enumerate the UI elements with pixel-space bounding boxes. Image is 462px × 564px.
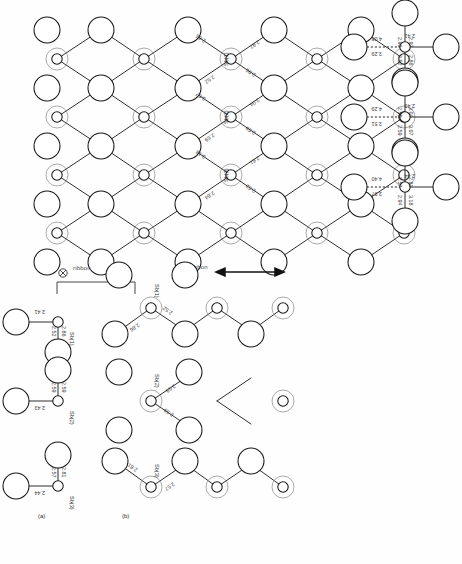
chain-sb3-up-left: 3.18 [408, 195, 414, 206]
chain-sb1-down-left: 2.97 [408, 37, 414, 48]
lattice-sb3-label: Sb(3) [223, 168, 229, 182]
panel-b-sb3-d1: 2.81 [127, 462, 139, 473]
lattice-sb2-d4: 3.04 [249, 97, 261, 108]
perpendicular-icon [59, 269, 67, 277]
structure-svg: 2.86 2.52 2.96 2.97 Sb(1) 3.07 2.59 2.59… [0, 0, 462, 564]
panel-b-chain-sb2: 2.59 2.59 Sb(2) [106, 359, 294, 443]
panel-a: (a) 2.86 2.52 2.41 Sb(1) 2.59 2.59 [3, 309, 75, 519]
panel-a-sb2-d2: 2.59 [61, 382, 67, 393]
panel-a-sb1-label: Sb(1) [69, 332, 75, 346]
lattice-sb1-d4: 2.97 [249, 39, 261, 50]
panel-b: (b) 2.86 2.52 Sb(1) [102, 262, 294, 519]
chain-sb3-down-right: 2.57 [397, 177, 403, 188]
panel-b-sb1-d2: 2.52 [162, 305, 174, 316]
panel-b-sb3-label: Sb(3) [154, 464, 160, 478]
panel-a-sb2-d1: 2.43 [35, 405, 46, 411]
panel-a-sb2-d3: 2.59 [51, 382, 57, 393]
figure-plate-rotated: 2.86 2.52 2.96 2.97 Sb(1) 3.07 2.59 2.59… [0, 0, 462, 564]
panel-b-sb1-label: Sb(1) [154, 284, 160, 298]
chain-sb3-up-right: 2.94 [397, 195, 403, 206]
panel-b-sb1-d1: 2.86 [129, 322, 141, 333]
chain-sb1-up-left: 2.86 [408, 55, 414, 66]
panel-a-sb1-d2: 2.52 [51, 326, 57, 337]
chain-sb1-up-right: 2.52 [397, 55, 403, 66]
chain-sb2-down-left: 3.04 [408, 107, 414, 118]
panel-a-sb2-label: Sb(2) [69, 411, 75, 425]
panel-b-chain-sb1: 2.86 2.52 Sb(1) [102, 262, 294, 347]
panel-a-unit-sb2: 2.59 2.59 2.43 Sb(2) [3, 357, 75, 425]
chain-sb1-right-short: 4.08 [372, 36, 383, 42]
panel-a-sb3-d3: 2.57 [51, 467, 57, 478]
panel-a-sb1-d3: 2.41 [35, 309, 46, 315]
ribbon-label-right: ribbon [73, 265, 91, 271]
panel-b-sb2-d2: 2.59 [165, 383, 177, 394]
figure-root: 2.86 2.52 2.96 2.97 Sb(1) 3.07 2.59 2.59… [0, 0, 462, 564]
chain-sb2-right-long: 3.51 [372, 121, 383, 127]
panel-b-chain-sb3: 2.81 2.57 Sb(3) [102, 448, 294, 498]
chain-sb2-right-short: 4.29 [372, 106, 383, 112]
chain-sb1-right-long: 3.29 [372, 51, 383, 57]
chain-sb2-up-left: 3.07 [408, 125, 414, 136]
panel-b-sb2-d1: 2.59 [163, 407, 175, 418]
lattice-sb3-d4: 2.61 [249, 155, 261, 166]
panel-a-title: (a) [38, 513, 45, 519]
panel-a-unit-sb1: 2.86 2.52 2.41 Sb(1) [3, 309, 75, 365]
panel-b-sb3-d2: 2.57 [164, 481, 176, 492]
chain-sb1-down-right: 2.96 [397, 37, 403, 48]
panel-a-sb1-d1: 2.86 [61, 326, 67, 337]
panel-a-sb3-d2: 2.81 [61, 467, 67, 478]
panel-b-title: (b) [122, 513, 129, 519]
chain-sb3-right-short: 4.40 [372, 176, 383, 182]
chain-sb2-down-right: 2.59 [397, 107, 403, 118]
panel-a-sb3-label: Sb(3) [69, 496, 75, 510]
panel-a-sb3-d1: 2.44 [35, 490, 46, 496]
lattice-large-atoms [34, 17, 374, 275]
lattice-sb2-label: Sb(2) [223, 110, 229, 124]
panel-b-sb2-label: Sb(2) [154, 374, 160, 388]
chain-sb3-right-long: 3.97 [372, 191, 383, 197]
panel-a-unit-sb3: 2.81 2.57 2.44 Sb(3) [3, 442, 75, 510]
chain-panel: 2.86 2.52 2.41 3.29 4.08 2.97 2.96 3.07 … [341, 0, 459, 234]
chain-sb3-down-left: 2.81 [408, 177, 414, 188]
chain-sb2-up-right: 2.59 [397, 125, 403, 136]
lattice-sb1-label: Sb(1) [223, 52, 229, 66]
